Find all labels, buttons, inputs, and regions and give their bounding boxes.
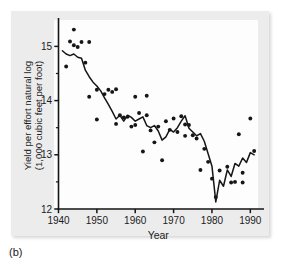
y-axis-title-line-1: Yield per effort natural log [22,61,33,170]
data-point [76,45,80,49]
data-point [145,94,149,98]
data-point [175,130,179,134]
figure-caption: (b) [9,246,22,258]
data-point [183,134,187,138]
x-tick-label: 1960 [124,215,147,226]
data-point [218,169,222,173]
data-point [248,117,252,121]
data-point [241,171,245,175]
data-point [87,95,91,99]
axis-labels-group: 12131415194019501960197019801990YearYiel… [22,41,262,241]
axes-group [54,18,264,213]
data-point [72,28,76,32]
data-point [179,114,183,118]
data-point [72,43,76,47]
y-axis-title-line-2: (1,000 cubic feet per foot) [33,61,44,170]
x-tick-label: 1950 [86,215,109,226]
data-point [129,125,133,129]
data-point [137,111,141,115]
data-point [141,150,145,154]
data-point [133,95,137,99]
data-point [110,90,114,94]
data-point [95,118,99,122]
data-point [237,132,241,136]
figure-panel-b: 12131415194019501960197019801990YearYiel… [0,0,287,280]
data-point [114,87,118,91]
data-point [68,40,72,44]
data-point [152,140,156,144]
data-point [252,149,256,153]
data-point [172,117,176,121]
data-point [160,158,164,162]
data-point [195,137,199,141]
data-point [64,65,68,69]
chart-svg: 12131415194019501960197019801990YearYiel… [0,0,287,280]
y-tick-label: 15 [41,41,53,52]
y-tick-label: 12 [41,204,53,215]
data-point [229,180,233,184]
x-tick-label: 1970 [162,215,185,226]
x-tick-label: 1990 [239,215,262,226]
data-point [233,180,237,184]
data-point [225,165,229,169]
data-point [87,40,91,44]
data-point [199,168,203,172]
data-series-group [62,28,256,202]
data-point [241,180,245,184]
data-point [114,122,118,126]
x-tick-label: 1980 [201,215,224,226]
x-axis-title: Year [148,229,170,241]
data-point [164,119,168,123]
data-point [183,122,187,126]
data-point [149,128,153,132]
data-point [80,40,84,44]
data-point [106,88,110,92]
data-point [145,113,149,117]
x-tick-label: 1940 [47,215,70,226]
data-point [133,123,137,127]
